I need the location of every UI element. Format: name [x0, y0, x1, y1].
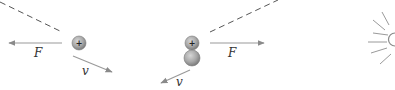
neutral-particle [184, 50, 200, 66]
physics-diagram: F + v F + v [0, 0, 395, 90]
panel-3-emission-rays [368, 12, 395, 64]
panel-2: F + v [161, 0, 278, 89]
force-label: F [33, 46, 43, 60]
positive-charge-particle: + [185, 36, 199, 50]
plus-sign: + [189, 39, 196, 48]
velocity-label: v [82, 64, 89, 78]
dashed-trajectory-line [0, 2, 62, 32]
partial-sphere [389, 33, 395, 46]
dashed-trajectory-line [210, 0, 278, 32]
velocity-arrow [73, 56, 112, 72]
force-label: F [227, 46, 237, 60]
positive-charge-particle: + [72, 36, 86, 50]
velocity-label: v [176, 75, 183, 89]
plus-sign: + [76, 39, 83, 48]
panel-1: F + v [0, 2, 112, 78]
